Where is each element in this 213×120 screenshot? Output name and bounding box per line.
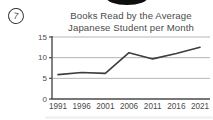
- x-tick-label: 2006: [120, 102, 139, 111]
- x-tick-label: 2016: [167, 102, 186, 111]
- x-tick-label: 1996: [73, 102, 92, 111]
- line-chart-plot: 1510501991199620012006201120162021: [0, 0, 213, 120]
- x-tick-label: 2021: [191, 102, 210, 111]
- scan-artifact-decoration: [45, 116, 213, 119]
- x-tick-label: 2011: [144, 102, 162, 111]
- x-tick-label: 1991: [49, 102, 68, 111]
- y-tick-label: 10: [38, 53, 47, 62]
- x-tick-label: 2001: [96, 102, 115, 111]
- y-tick-label: 5: [43, 74, 48, 83]
- worksheet-chart-panel: 7 Books Read by the Average Japanese Stu…: [0, 0, 213, 120]
- y-tick-label: 15: [38, 33, 47, 42]
- data-line: [58, 47, 200, 74]
- y-tick-label: 0: [43, 95, 48, 104]
